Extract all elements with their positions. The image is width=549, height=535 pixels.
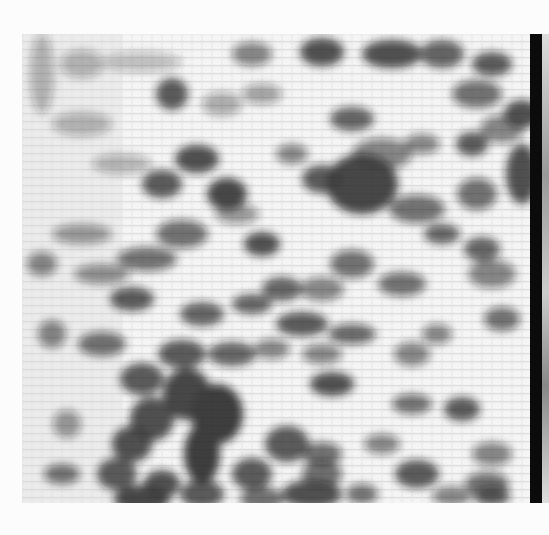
grayscale-photo — [22, 34, 533, 503]
outer-edge-strip — [542, 34, 549, 503]
image-canvas — [0, 0, 549, 535]
photo-texture — [22, 34, 533, 503]
dark-edge-bar — [530, 34, 542, 503]
